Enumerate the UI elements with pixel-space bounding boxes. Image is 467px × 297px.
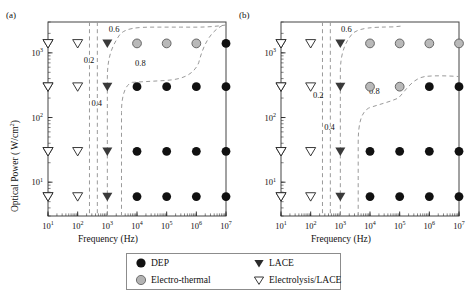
x-tick-label: 105 xyxy=(161,220,173,231)
marker-dep xyxy=(395,192,404,201)
marker-electro-thermal xyxy=(133,39,142,48)
contour-label: 0.2 xyxy=(84,55,95,65)
y-tick-label: 102 xyxy=(265,112,277,123)
marker-electrolysis-lace xyxy=(306,193,316,201)
x-tick-label: 106 xyxy=(191,220,203,231)
x-tick-label: 101 xyxy=(42,220,54,231)
marker-dep xyxy=(162,192,171,201)
marker-electrolysis-lace xyxy=(306,40,316,48)
marker-electro-thermal xyxy=(366,82,375,91)
x-tick-label: 104 xyxy=(131,220,143,231)
panel-a: (a) Optical Power ( W/cm2) 1011021031041… xyxy=(0,0,234,250)
marker-dep xyxy=(133,192,142,201)
y-tick-label: 102 xyxy=(32,112,44,123)
marker-dep xyxy=(455,82,464,91)
x-tick-label: 101 xyxy=(275,220,287,231)
marker-dep xyxy=(366,147,375,156)
marker-dep xyxy=(455,147,464,156)
marker-electrolysis-lace xyxy=(43,193,53,201)
marker-lace xyxy=(102,148,112,156)
marker-electro-thermal xyxy=(192,39,201,48)
x-tick-label: 102 xyxy=(305,220,317,231)
marker-electrolysis-lace xyxy=(73,148,83,156)
marker-lace xyxy=(335,40,345,48)
marker-dep xyxy=(222,39,231,48)
marker-lace xyxy=(335,148,345,156)
legend-box: DEP LACE Electro-thermal Electrolysis/LA… xyxy=(126,253,341,290)
contour-label: 0.8 xyxy=(135,58,146,68)
marker-dep xyxy=(192,82,201,91)
x-tick-label: 107 xyxy=(220,220,232,231)
y-tick-label: 101 xyxy=(265,177,277,188)
x-tick-label: 107 xyxy=(453,220,465,231)
y-tick-label: 103 xyxy=(265,47,277,58)
contour-line xyxy=(107,25,226,216)
legend-item-lace: LACE xyxy=(253,257,350,269)
x-tick-label: 105 xyxy=(394,220,406,231)
marker-electrolysis-lace xyxy=(73,193,83,201)
marker-electrolysis-lace xyxy=(73,83,83,91)
contour-label: 0.4 xyxy=(324,122,335,132)
marker-dep xyxy=(192,192,201,201)
marker-electrolysis-lace xyxy=(276,83,286,91)
marker-electrolysis-lace xyxy=(73,40,83,48)
legend-label-lace: LACE xyxy=(269,258,294,268)
marker-dep xyxy=(192,147,201,156)
x-tick-label: 104 xyxy=(364,220,376,231)
marker-dep xyxy=(222,192,231,201)
y-tick-label: 101 xyxy=(32,177,44,188)
x-tick-label: 103 xyxy=(335,220,347,231)
contour-label: 0.6 xyxy=(109,24,120,34)
legend-label-dep: DEP xyxy=(151,258,169,268)
marker-dep xyxy=(395,147,404,156)
x-axis-ticks: 101102103104105106107 xyxy=(275,212,465,232)
marker-electrolysis-lace xyxy=(43,40,53,48)
filled-triangle-down-icon xyxy=(253,257,265,269)
marker-dep xyxy=(222,82,231,91)
legend-item-electrolysis-lace: Electrolysis/LACE xyxy=(253,274,350,286)
legend-item-electro-thermal: Electro-thermal xyxy=(135,274,253,286)
contour-label: 0.4 xyxy=(91,98,102,108)
y-tick-label: 103 xyxy=(32,47,44,58)
marker-dep xyxy=(455,192,464,201)
y-axis-ticks: 103102101 xyxy=(32,47,53,187)
contour-label: 0.6 xyxy=(341,24,352,34)
panel-a-canvas: 1011021031041051061071031021010.20.40.60… xyxy=(0,0,234,250)
contour-line xyxy=(121,24,226,216)
marker-electro-thermal xyxy=(395,82,404,91)
contour-line xyxy=(340,26,402,216)
filled-circle-icon xyxy=(135,257,147,269)
marker-dep xyxy=(425,147,434,156)
plot-frame xyxy=(48,22,226,216)
marker-lace xyxy=(335,83,345,91)
marker-electro-thermal xyxy=(366,39,375,48)
figure-root: (a) Optical Power ( W/cm2) 1011021031041… xyxy=(0,0,467,297)
panel-b-canvas: 1011021031041051061071031021010.20.40.60… xyxy=(233,0,467,250)
marker-electrolysis-lace xyxy=(306,148,316,156)
x-axis-ticks: 101102103104105106107 xyxy=(42,212,232,232)
x-axis-label-b: Frequency (Hz) xyxy=(311,234,371,244)
marker-dep xyxy=(222,147,231,156)
marker-electrolysis-lace xyxy=(43,148,53,156)
marker-lace xyxy=(102,40,112,48)
plot-frame xyxy=(281,22,459,216)
marker-electro-thermal xyxy=(455,39,464,48)
marker-dep xyxy=(133,147,142,156)
marker-lace xyxy=(335,193,345,201)
marker-electrolysis-lace xyxy=(276,40,286,48)
data-markers xyxy=(276,39,463,201)
marker-electrolysis-lace xyxy=(276,193,286,201)
marker-electrolysis-lace xyxy=(276,148,286,156)
x-tick-label: 102 xyxy=(72,220,84,231)
marker-electrolysis-lace xyxy=(43,83,53,91)
marker-electro-thermal xyxy=(425,39,434,48)
legend-label-electro-thermal: Electro-thermal xyxy=(151,275,211,285)
x-tick-label: 106 xyxy=(424,220,436,231)
contour-label: 0.2 xyxy=(313,90,324,100)
marker-dep xyxy=(425,192,434,201)
x-axis-label-a: Frequency (Hz) xyxy=(78,234,138,244)
open-triangle-down-icon xyxy=(253,274,265,286)
marker-dep xyxy=(162,82,171,91)
marker-lace xyxy=(102,83,112,91)
legend-label-electrolysis-lace: Electrolysis/LACE xyxy=(269,275,341,285)
